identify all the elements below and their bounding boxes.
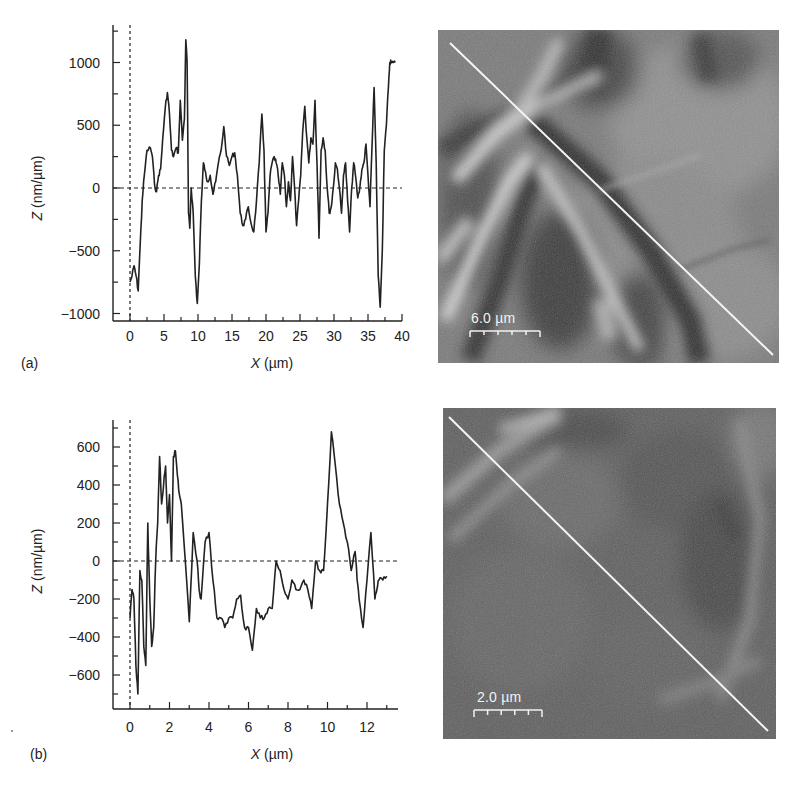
y-tick-label: −600 (68, 667, 100, 683)
x-tick-label: 15 (224, 328, 240, 344)
scale-bar-label-b: 2.0 µm (477, 689, 521, 705)
x-tick-label: 6 (245, 719, 253, 735)
y-tick-label: 0 (92, 553, 100, 569)
y-tick-label: 400 (77, 477, 101, 493)
x-tick-label: 10 (190, 328, 206, 344)
stray-dot (11, 730, 13, 732)
chart-b-x-axis-label: X (µm) (250, 746, 293, 762)
chart-b-y-axis-label: Z (nm/µm) (29, 529, 45, 595)
x-tick-label: 8 (284, 719, 292, 735)
profile-chart-b: −600−400−2000200400600024681012 Z (nm/µm… (11, 420, 398, 762)
x-tick-label: 0 (126, 719, 134, 735)
chart-b-ticks (113, 428, 387, 709)
y-tick-label: −1000 (61, 306, 101, 322)
y-tick-label: −400 (68, 629, 100, 645)
charts-canvas: −1000−500050010000510152025303540 Z (nm/… (0, 0, 798, 789)
x-tick-label: 40 (394, 328, 410, 344)
y-tick-label: 1000 (69, 55, 100, 71)
chart-a-x-axis-label: X (µm) (250, 355, 293, 371)
x-tick-label: 0 (126, 328, 134, 344)
y-tick-label: −200 (68, 591, 100, 607)
panel-label-b: (b) (30, 746, 47, 762)
x-tick-label: 35 (360, 328, 376, 344)
profile-chart-a: −1000−500050010000510152025303540 Z (nm/… (21, 25, 410, 371)
chart-a-profile-line (130, 40, 395, 307)
x-tick-label: 12 (359, 719, 375, 735)
y-tick-label: 500 (77, 117, 101, 133)
chart-b-profile-line (130, 432, 387, 694)
chart-a-y-axis-label: Z (nm/µm) (29, 156, 45, 222)
x-tick-label: 5 (160, 328, 168, 344)
y-tick-label: 200 (77, 515, 101, 531)
x-tick-label: 30 (326, 328, 342, 344)
chart-a-axes (113, 25, 402, 321)
x-tick-label: 25 (292, 328, 308, 344)
panel-label-a: (a) (21, 355, 38, 371)
chart-a-reference-lines (113, 25, 402, 321)
x-tick-label: 10 (320, 719, 336, 735)
scale-bar-label-a: 6.0 µm (471, 310, 515, 326)
y-tick-label: 600 (77, 439, 101, 455)
y-tick-label: −500 (68, 243, 100, 259)
x-tick-label: 20 (258, 328, 274, 344)
x-tick-label: 2 (166, 719, 174, 735)
figure: −1000−500050010000510152025303540 Z (nm/… (0, 0, 798, 789)
y-tick-label: 0 (92, 180, 100, 196)
x-tick-label: 4 (205, 719, 213, 735)
